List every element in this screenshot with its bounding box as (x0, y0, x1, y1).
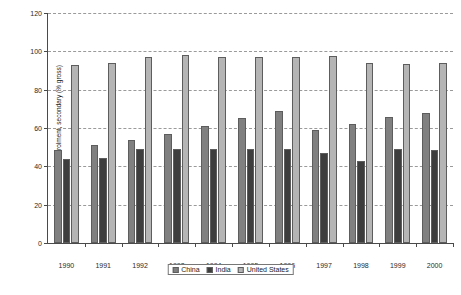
x-axis-tick (269, 243, 270, 247)
bar-india-1996 (284, 149, 292, 243)
legend-swatch-icon (238, 267, 244, 273)
x-axis-tick-label: 1997 (316, 262, 332, 270)
bar-united-states-1991 (108, 63, 116, 243)
bar-india-1999 (394, 149, 402, 243)
bar-india-1991 (99, 158, 107, 243)
y-axis-tick (44, 205, 48, 206)
plot-area: 0204060801001201990199119921993199419951… (47, 13, 453, 244)
bar-china-1999 (385, 117, 393, 244)
gridline (48, 51, 453, 52)
gridline (48, 13, 453, 14)
legend-label: United States (247, 266, 289, 274)
bar-india-2000 (431, 150, 439, 243)
legend-item-united-states[interactable]: United States (238, 266, 289, 274)
bar-india-1998 (357, 161, 365, 243)
bar-united-states-1992 (145, 57, 153, 243)
bar-china-1997 (312, 130, 320, 243)
x-axis-tick (453, 243, 454, 247)
y-axis-tick (44, 51, 48, 52)
y-axis-tick-label: 80 (34, 86, 42, 93)
x-axis-tick (306, 243, 307, 247)
bar-china-1991 (91, 145, 99, 243)
x-axis-tick (416, 243, 417, 247)
x-axis-tick-label: 1991 (95, 262, 111, 270)
y-axis-tick (44, 243, 48, 244)
legend-swatch-icon (172, 267, 178, 273)
bar-china-1993 (164, 134, 172, 243)
x-axis-tick-label: 1990 (59, 262, 75, 270)
bar-chart: School enrolment, secondary (% gross) 02… (0, 0, 461, 295)
x-axis-tick (122, 243, 123, 247)
legend-item-china[interactable]: China (172, 266, 199, 274)
x-axis-tick (85, 243, 86, 247)
x-axis-tick-label: 1998 (353, 262, 369, 270)
chart-legend: China India United States (167, 264, 294, 275)
bar-united-states-1998 (366, 63, 374, 243)
y-axis-tick (44, 166, 48, 167)
legend-label: India (216, 266, 231, 274)
bar-china-2000 (422, 113, 430, 243)
bar-china-1998 (349, 124, 357, 243)
bar-china-1994 (201, 126, 209, 243)
bar-united-states-1993 (182, 55, 190, 243)
bar-china-1990 (54, 150, 62, 243)
y-axis-tick-label: 0 (38, 240, 42, 247)
bar-united-states-1995 (255, 57, 263, 243)
bar-india-1994 (210, 149, 218, 243)
bar-china-1996 (275, 111, 283, 243)
bar-united-states-1999 (403, 64, 411, 243)
legend-label: China (181, 266, 199, 274)
bar-united-states-1990 (71, 65, 79, 243)
y-axis-title-wrap: School enrolment, secondary (% gross) (0, 0, 16, 243)
legend-swatch-icon (207, 267, 213, 273)
x-axis-tick (158, 243, 159, 247)
y-axis-tick-label: 120 (30, 10, 42, 17)
bar-united-states-2000 (439, 63, 447, 243)
y-axis-tick (44, 90, 48, 91)
y-axis-tick-label: 20 (34, 201, 42, 208)
x-axis-tick-label: 1992 (132, 262, 148, 270)
y-axis-tick-label: 100 (30, 48, 42, 55)
bar-india-1995 (247, 149, 255, 243)
x-axis-tick (232, 243, 233, 247)
bar-india-1990 (63, 159, 71, 243)
bar-united-states-1994 (218, 57, 226, 243)
bar-india-1993 (173, 149, 181, 243)
y-axis-tick-label: 40 (34, 163, 42, 170)
x-axis-tick-label: 1999 (390, 262, 406, 270)
legend-item-india[interactable]: India (207, 266, 231, 274)
x-axis-tick (343, 243, 344, 247)
bar-united-states-1997 (329, 56, 337, 243)
y-axis-tick (44, 128, 48, 129)
x-axis-tick-label: 2000 (427, 262, 443, 270)
bar-india-1997 (320, 153, 328, 243)
x-axis-tick (379, 243, 380, 247)
y-axis-tick-label: 60 (34, 125, 42, 132)
bar-china-1992 (128, 140, 136, 244)
bar-united-states-1996 (292, 57, 300, 243)
bar-china-1995 (238, 118, 246, 243)
y-axis-tick (44, 13, 48, 14)
bar-india-1992 (136, 149, 144, 243)
x-axis-tick (195, 243, 196, 247)
